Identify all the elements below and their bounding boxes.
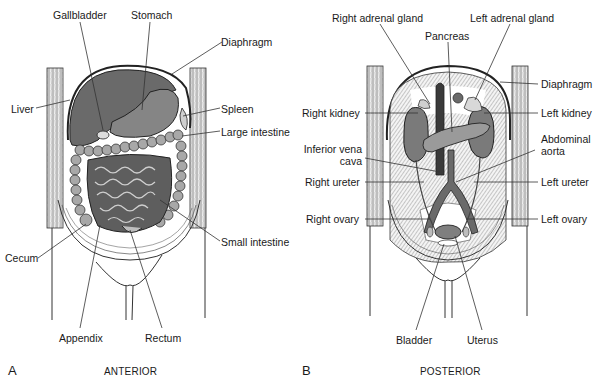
label-appendix: Appendix [59, 332, 103, 344]
label-inferior-vena-cava-line1: Inferior vena [304, 143, 362, 155]
view-caption-anterior: ANTERIOR [104, 366, 157, 377]
label-left-ureter: Left ureter [541, 176, 589, 188]
panel-letter-b: B [302, 363, 311, 378]
panel-a-art [36, 22, 222, 328]
label-spleen: Spleen [221, 103, 254, 115]
view-caption-posterior: POSTERIOR [420, 366, 481, 377]
label-gallbladder: Gallbladder [53, 9, 107, 21]
label-diaphragm-b: Diaphragm [541, 78, 592, 90]
label-small-intestine: Small intestine [221, 236, 289, 248]
label-right-kidney: Right kidney [302, 107, 360, 119]
label-liver: Liver [11, 103, 34, 115]
label-abdominal-aorta-line1: Abdominal [541, 133, 591, 145]
label-pancreas: Pancreas [425, 30, 469, 42]
abdominal-organs-figure: Gallbladder Stomach Diaphragm Liver Sple… [0, 0, 598, 386]
label-inferior-vena-cava-line2: cava [340, 155, 362, 167]
panel-b-art [365, 24, 538, 330]
label-bladder: Bladder [396, 334, 432, 346]
label-stomach: Stomach [131, 9, 172, 21]
label-abdominal-aorta-line2: aorta [541, 145, 565, 157]
label-cecum: Cecum [5, 252, 38, 264]
label-left-ovary: Left ovary [541, 213, 587, 225]
label-diaphragm-a: Diaphragm [221, 36, 272, 48]
label-left-adrenal-gland: Left adrenal gland [470, 12, 554, 24]
label-inferior-vena-cava: Inferior vena cava [300, 143, 362, 167]
label-rectum: Rectum [145, 332, 181, 344]
label-right-adrenal-gland: Right adrenal gland [332, 12, 423, 24]
label-large-intestine: Large intestine [221, 126, 290, 138]
anatomy-illustration [0, 0, 598, 386]
panel-letter-a: A [8, 363, 17, 378]
label-right-ovary: Right ovary [306, 213, 359, 225]
label-abdominal-aorta: Abdominal aorta [541, 133, 591, 157]
label-right-ureter: Right ureter [305, 176, 360, 188]
label-uterus: Uterus [467, 334, 498, 346]
label-left-kidney: Left kidney [541, 107, 592, 119]
